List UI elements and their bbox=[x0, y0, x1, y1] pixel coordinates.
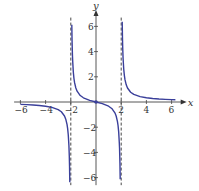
y-tick-label: −4 bbox=[83, 148, 97, 158]
x-tick-label: 6 bbox=[169, 105, 175, 115]
right-branch-curve bbox=[122, 22, 175, 100]
x-tick-label: 4 bbox=[143, 105, 149, 115]
x-axis-arrow-icon bbox=[181, 100, 187, 105]
x-axis-label: x bbox=[188, 97, 194, 108]
y-tick-label: 4 bbox=[88, 47, 94, 57]
x-tick-label: −6 bbox=[14, 105, 28, 115]
axes bbox=[14, 10, 187, 185]
origin-point bbox=[94, 100, 98, 104]
y-tick-label: 2 bbox=[88, 72, 94, 82]
x-tick-label: 2 bbox=[118, 105, 124, 115]
x-tick-label: −2 bbox=[65, 105, 78, 115]
function-graph: −6−4−2246−6−4−2246 x y bbox=[0, 0, 199, 191]
y-tick-label: 6 bbox=[88, 22, 94, 32]
left-branch-curve bbox=[20, 104, 69, 182]
y-tick-label: −2 bbox=[83, 123, 96, 133]
y-axis-label: y bbox=[92, 0, 99, 11]
y-tick-label: −6 bbox=[83, 173, 97, 183]
point-markers bbox=[94, 100, 98, 104]
